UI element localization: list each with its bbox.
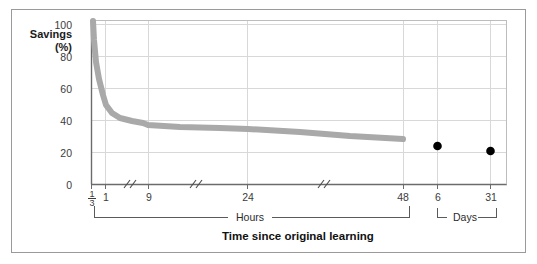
days-data-points — [433, 142, 495, 156]
bracket-days — [437, 208, 497, 218]
plot-axes — [91, 20, 507, 185]
data-point-day-31 — [486, 147, 495, 156]
bracket-hours — [94, 206, 410, 218]
plot-canvas — [0, 0, 537, 264]
gridlines-vertical — [92, 20, 491, 184]
forgetting-curve-figure: Savings (%) 100 80 60 40 20 0 1 3 1 9 24… — [0, 0, 537, 264]
data-point-day-6 — [433, 142, 442, 151]
